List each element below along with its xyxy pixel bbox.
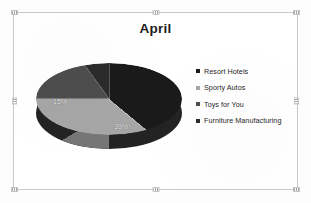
square-marker-icon — [196, 119, 200, 123]
resize-handle-top-left[interactable] — [11, 10, 18, 15]
pie-label-sporty-autos: 39% — [114, 123, 128, 130]
square-marker-icon — [196, 86, 200, 90]
legend-item[interactable]: Furniture Manufacturing — [196, 113, 296, 130]
slide-canvas: April 39% 15% Resort HotelsSporty AutosT… — [0, 0, 311, 203]
chart-object[interactable]: April 39% 15% Resort HotelsSporty AutosT… — [13, 12, 298, 190]
legend-item[interactable]: Sporty Autos — [196, 80, 296, 97]
square-marker-icon — [196, 69, 200, 73]
resize-handle-bottom-left[interactable] — [11, 187, 18, 192]
slice-separator — [109, 63, 110, 99]
plot-area[interactable]: 39% 15% — [24, 51, 194, 181]
legend-item-label: Furniture Manufacturing — [204, 117, 281, 124]
resize-handle-bottom-right[interactable] — [293, 187, 300, 192]
resize-handle-top-right[interactable] — [293, 10, 300, 15]
slice-separator — [66, 63, 109, 99]
resize-handle-bottom-center[interactable] — [152, 187, 159, 192]
legend-item-label: Resort Hotels — [204, 68, 248, 75]
resize-handle-top-center[interactable] — [152, 10, 159, 15]
resize-handle-middle-left[interactable] — [12, 98, 17, 105]
legend-item[interactable]: Resort Hotels — [196, 63, 296, 80]
legend-item[interactable]: Toys for You — [196, 96, 296, 113]
legend-item-label: Sporty Autos — [204, 84, 245, 91]
square-marker-icon — [196, 102, 200, 106]
chart-title[interactable]: April — [14, 22, 297, 36]
pie-label-toys-for-you: 15% — [53, 98, 67, 105]
legend-item-label: Toys for You — [204, 101, 244, 108]
slice-separator — [36, 99, 109, 100]
pie-chart-3d[interactable]: 39% 15% — [36, 63, 182, 163]
chart-legend[interactable]: Resort HotelsSporty AutosToys for YouFur… — [196, 63, 296, 129]
